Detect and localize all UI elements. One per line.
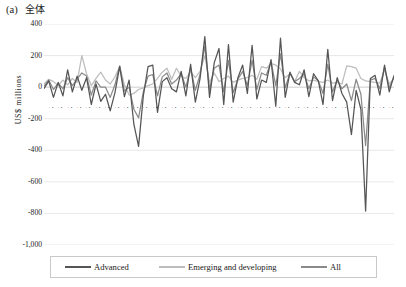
legend: AdvancedEmerging and developingAll [50, 256, 377, 278]
x-tick-label: 2010Q1 [160, 107, 167, 108]
x-tick-label: 2022Q1 [387, 107, 394, 108]
y-tick-label: -600 [2, 178, 42, 186]
y-axis-tick-labels: 4002000-200-400-600-800-1,000 [0, 24, 42, 245]
x-tick-label: 2015Q3 [264, 107, 271, 108]
x-tick-label: 2012Q1 [198, 107, 205, 108]
x-tick-label: 2016Q1 [274, 107, 281, 108]
x-tick-label: 2013Q3 [226, 107, 233, 108]
x-tick-label: 2007Q3 [113, 107, 120, 108]
panel-tag: (a) [6, 4, 18, 15]
x-tick-label: 2012Q3 [207, 107, 214, 108]
x-tick-label: 2019Q1 [330, 107, 337, 108]
x-tick-label: 2016Q3 [283, 107, 290, 108]
x-tick-label: 2020Q3 [359, 107, 366, 108]
panel-title-text: 全体 [25, 4, 45, 15]
x-tick-label: 2017Q3 [302, 107, 309, 108]
legend-item[interactable]: All [301, 262, 341, 272]
x-tick-label: 2011Q1 [179, 107, 186, 108]
legend-label: Advanced [94, 262, 129, 272]
x-tick-label: 2005Q3 [75, 107, 82, 108]
x-tick-label: 2018Q3 [321, 107, 328, 108]
y-tick-label: 400 [2, 20, 42, 28]
x-tick-label: 2006Q1 [84, 107, 91, 108]
x-tick-label: 2019Q3 [340, 107, 347, 108]
x-tick-label: 2009Q3 [151, 107, 158, 108]
page-title: (a)全体 [6, 4, 45, 16]
x-tick-label: 2013Q1 [217, 107, 224, 108]
legend-item[interactable]: Advanced [65, 262, 129, 272]
x-tick-label: 2018Q1 [311, 107, 318, 108]
legend-label: All [330, 262, 341, 272]
x-tick-label: 2004Q1 [47, 107, 54, 108]
x-tick-label: 2007Q1 [103, 107, 110, 108]
x-tick-label: 2014Q3 [245, 107, 252, 108]
legend-swatch-icon [301, 266, 327, 268]
x-tick-label: 2021Q1 [368, 107, 375, 108]
x-axis-tick-labels: 2004Q12004Q32005Q12005Q32006Q12006Q32007… [44, 107, 396, 167]
y-tick-label: -200 [2, 115, 42, 123]
x-tick-label: 2011Q3 [188, 107, 195, 108]
x-tick-label: 2014Q1 [236, 107, 243, 108]
figure-panel-a: (a)全体 US$ millions 4002000-200-400-600-8… [0, 0, 406, 287]
x-tick-label: 2008Q3 [132, 107, 139, 108]
y-tick-label: -1,000 [2, 241, 42, 249]
x-tick-label: 2021Q3 [378, 107, 385, 108]
y-tick-label: -800 [2, 209, 42, 217]
y-tick-label: 0 [2, 83, 42, 91]
x-tick-label: 2008Q1 [122, 107, 129, 108]
x-tick-label: 2017Q1 [293, 107, 300, 108]
x-tick-label: 2015Q1 [255, 107, 262, 108]
y-tick-label: 200 [2, 52, 42, 60]
x-tick-label: 2006Q3 [94, 107, 101, 108]
x-tick-label: 2005Q1 [66, 107, 73, 108]
y-tick-label: -400 [2, 146, 42, 154]
legend-swatch-icon [65, 266, 91, 268]
x-tick-label: 2004Q3 [56, 107, 63, 108]
x-tick-label: 2009Q1 [141, 107, 148, 108]
x-tick-label: 2020Q1 [349, 107, 356, 108]
legend-item[interactable]: Emerging and developing [159, 262, 277, 272]
legend-label: Emerging and developing [188, 262, 277, 272]
x-tick-label: 2010Q3 [170, 107, 177, 108]
legend-swatch-icon [159, 266, 185, 268]
